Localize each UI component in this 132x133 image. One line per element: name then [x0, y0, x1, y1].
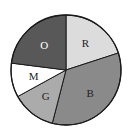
pie-label-m: M [29, 70, 39, 82]
pie-label-r: R [82, 37, 90, 49]
pie-label-g: G [42, 90, 50, 102]
pie-label-b: B [86, 87, 93, 99]
pie-slice-o [11, 15, 66, 70]
pie-chart: RBGMO [0, 0, 132, 133]
pie-label-o: O [40, 39, 48, 51]
